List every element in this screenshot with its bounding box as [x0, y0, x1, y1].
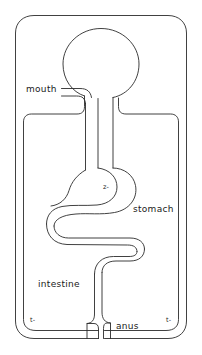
label-stomach: stomach	[133, 205, 174, 214]
label-tangent-z: z-	[103, 184, 109, 191]
mouth-lip-lower-path	[62, 96, 86, 104]
label-anus: anus	[116, 322, 139, 331]
intestine-turn2-inner-path	[95, 252, 138, 275]
body-inner-wall-right-path	[105, 98, 179, 331]
label-intestine: intestine	[38, 280, 80, 289]
diagram-canvas: mouth stomach intestine anus z- t- t-	[0, 0, 202, 355]
label-tangent-left: t-	[30, 317, 35, 324]
rectum-left-wall-path	[87, 274, 95, 339]
intestine-turn2-outer-path	[102, 249, 145, 273]
label-tangent-right: t-	[166, 317, 171, 324]
label-mouth: mouth	[26, 85, 57, 94]
anus-sphincter-left-path	[87, 324, 99, 339]
body-outline-path	[16, 16, 187, 339]
stomach-lesser-curve-path	[51, 170, 86, 206]
stomach-inner-path	[47, 168, 118, 224]
mouth-cavity-outer-path	[63, 29, 139, 98]
body-inner-wall-path	[24, 96, 99, 331]
digestive-tract-figure	[0, 0, 202, 355]
